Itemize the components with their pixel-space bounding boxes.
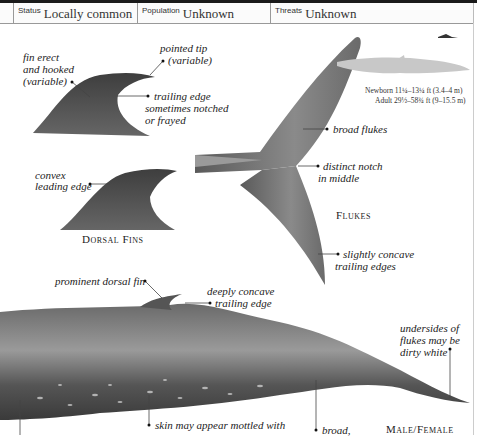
annotation-distinct-notch: distinct notch <box>323 161 383 172</box>
dorsal-fin-convex <box>60 169 177 230</box>
annotation-fin-erect: fin erect <box>23 52 59 63</box>
annotation-sometimes-notched: sometimes notched <box>145 103 228 114</box>
annotation-or-frayed: or frayed <box>145 115 186 126</box>
annotation-and-hooked: and hooked <box>23 64 74 75</box>
annotation-broad: broad, <box>322 425 351 436</box>
annotation-leading-edge: leading edge <box>35 181 92 192</box>
annotation-pointed-tip: pointed tip <box>160 43 207 54</box>
size-adult: Adult 29½–58¾ ft (9–15.5 m) <box>375 96 466 106</box>
annotation-skin-mottled: skin may appear mottled with <box>155 420 285 431</box>
annotation-prominent-dorsal-fin: prominent dorsal fin <box>55 276 145 287</box>
size-newborn: Newborn 11¼–13¼ ft (3.4–4 m) <box>365 86 462 96</box>
annotation-slightly-concave: slightly concave <box>343 249 414 260</box>
annotation-variable-2: (variable) <box>168 55 212 66</box>
caption-dorsal-fins: Dorsal Fins <box>82 233 143 245</box>
annotation-dirty-white: dirty white <box>400 347 447 358</box>
annotation-variable-1: (variable) <box>23 76 67 87</box>
caption-male-female: Male/Female <box>386 423 454 435</box>
caption-flukes: Flukes <box>336 209 371 221</box>
annotation-trailing-edges: trailing edges <box>335 261 396 272</box>
annotation-trailing-edge-body: trailing edge <box>215 298 272 309</box>
annotation-trailing-edge: trailing edge <box>154 91 211 102</box>
annotation-broad-flukes: broad flukes <box>333 124 387 135</box>
annotation-in-middle: in middle <box>318 173 359 184</box>
annotation-deeply-concave: deeply concave <box>207 286 274 297</box>
annotation-undersides: undersides of <box>400 323 459 334</box>
annotation-flukes-may-be: flukes may be <box>400 335 460 346</box>
